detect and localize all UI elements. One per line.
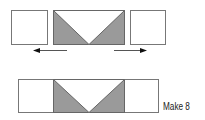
flying-geese-unit [54,11,125,45]
assembled-strip [19,80,159,113]
left-square [12,11,48,45]
arrow-right-icon [114,48,147,53]
make-count-caption: Make 8 [163,101,190,112]
right-square [131,11,166,45]
arrow-left-icon [33,48,67,53]
